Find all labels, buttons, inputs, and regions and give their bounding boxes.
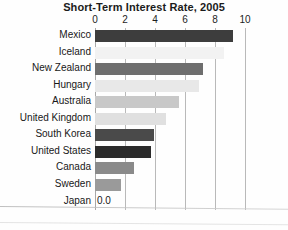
bar-row: South Korea	[0, 127, 288, 144]
bar-value-label-japan: 0.0	[97, 195, 111, 206]
category-label-hungary: Hungary	[0, 79, 91, 90]
x-tick-label-6: 6	[182, 14, 188, 25]
category-label-australia: Australia	[0, 95, 91, 106]
bar-mexico	[95, 30, 233, 42]
chart-title: Short-Term Interest Rate, 2005	[0, 1, 288, 13]
scan-artifact-rule-secondary	[0, 222, 288, 225]
bar-row: United Kingdom	[0, 111, 288, 128]
bar-canada	[95, 162, 134, 174]
category-label-mexico: Mexico	[0, 29, 91, 40]
bar-united-states	[95, 146, 151, 158]
bar-hungary	[95, 80, 199, 92]
category-label-united-kingdom: United Kingdom	[0, 112, 91, 123]
bar-row: Sweden	[0, 177, 288, 194]
x-tick-label-2: 2	[122, 14, 128, 25]
bar-south-korea	[95, 129, 154, 141]
x-tick-label-8: 8	[212, 14, 218, 25]
x-tick-label-4: 4	[152, 14, 158, 25]
category-label-iceland: Iceland	[0, 46, 91, 57]
x-tick-label-10: 10	[239, 14, 250, 25]
bar-chart: Short-Term Interest Rate, 2005 0246810 M…	[0, 0, 288, 230]
category-label-united-states: United States	[0, 145, 91, 156]
category-label-canada: Canada	[0, 161, 91, 172]
bar-united-kingdom	[95, 113, 166, 125]
category-label-south-korea: South Korea	[0, 128, 91, 139]
bar-sweden	[95, 179, 121, 191]
x-axis-tick-labels: 0246810	[95, 14, 245, 27]
bar-row: Iceland	[0, 45, 288, 62]
bar-iceland	[95, 47, 224, 59]
category-label-japan: Japan	[0, 195, 91, 206]
bar-row: United States	[0, 144, 288, 161]
x-tick-label-0: 0	[92, 14, 98, 25]
bar-row: Australia	[0, 94, 288, 111]
bar-row: Mexico	[0, 28, 288, 45]
category-label-new-zealand: New Zealand	[0, 62, 91, 73]
bar-row: Hungary	[0, 78, 288, 95]
bar-row: Canada	[0, 160, 288, 177]
category-label-sweden: Sweden	[0, 178, 91, 189]
bar-new-zealand	[95, 63, 203, 75]
bar-australia	[95, 96, 179, 108]
bar-row: New Zealand	[0, 61, 288, 78]
